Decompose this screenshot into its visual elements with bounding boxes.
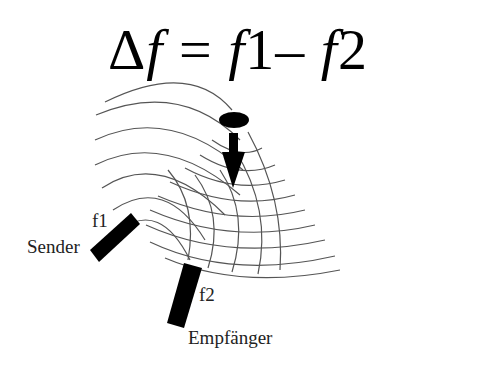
- doppler-diagram: Δf = f1– f2: [0, 0, 479, 366]
- label-receiver: Empfänger: [188, 327, 272, 349]
- object-ellipse: [219, 112, 249, 128]
- receiver-block: [167, 263, 202, 328]
- label-sender: Sender: [27, 236, 80, 258]
- label-f2: f2: [199, 284, 215, 306]
- wave-drawing: [0, 0, 479, 366]
- wavefront-arcs: [146, 140, 340, 278]
- receiver-device: [167, 263, 202, 328]
- label-f1: f1: [92, 210, 108, 232]
- arrow-shaft: [229, 133, 238, 155]
